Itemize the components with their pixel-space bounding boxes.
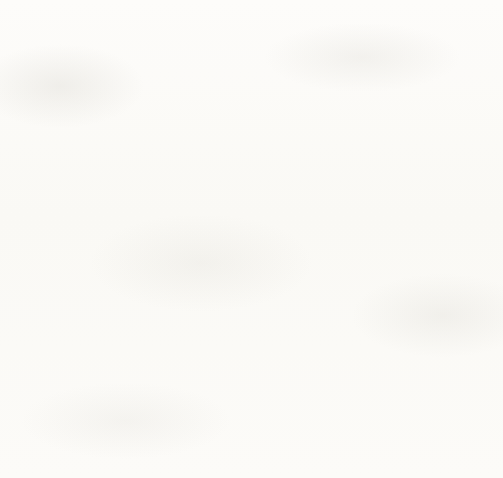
- bar-segment-passenger-related: [133, 120, 143, 193]
- plot-area: [73, 32, 486, 382]
- y-axis-tick-label: USD 10,000: [12, 237, 66, 248]
- y-axis-tick-label: USD 20,000: [12, 97, 66, 108]
- bar-moscow-svo: [442, 259, 452, 382]
- bar-sao-paolo-gru: [210, 172, 220, 382]
- bar-segment-passenger-related: [262, 203, 272, 328]
- legend-label-aircraft-related: Aircraft-related: [221, 60, 282, 70]
- chart-legend: Aircraft-related Passenger-related: [210, 60, 390, 70]
- bar-singapore: [391, 250, 401, 382]
- bar-johannesburg: [133, 120, 143, 382]
- gray-square-icon: [304, 62, 310, 68]
- y-axis-tick: [68, 382, 73, 383]
- bar-segment-passenger-related: [287, 210, 297, 364]
- bar-segment-passenger-related: [365, 249, 375, 306]
- y-axis-tick-label: USD 0: [37, 377, 66, 388]
- chart-page: USD 0USD 5,000USD 10,000USD 15,000USD 20…: [0, 0, 503, 478]
- bar-segment-passenger-related: [313, 242, 323, 351]
- bar-segment-passenger-related: [391, 250, 401, 341]
- bar-segment-passenger-related: [442, 259, 452, 291]
- bar-sydney: [184, 155, 194, 382]
- bar-rome-fco: [158, 148, 168, 382]
- bar-segment-passenger-related: [81, 67, 91, 322]
- bar-segment-passenger-related: [158, 148, 168, 313]
- bar-segment-passenger-related: [236, 183, 246, 354]
- y-axis-tick-label: USD 25,000: [12, 27, 66, 38]
- bar-segment-aircraft-related: [442, 291, 452, 382]
- bar-london-lhr: [81, 67, 91, 382]
- x-axis-labels: London LHRTorontoJohannesburgRome FCOSyd…: [73, 386, 486, 476]
- bar-segment-passenger-related: [184, 155, 194, 326]
- bar-segment-aircraft-related: [339, 341, 349, 382]
- bar-group: [73, 32, 486, 382]
- y-axis-tick-label: USD 15,000: [12, 167, 66, 178]
- bar-segment-passenger-related: [107, 85, 117, 240]
- legend-label-passenger-related: Passenger-related: [315, 60, 390, 70]
- bar-toronto: [107, 85, 117, 382]
- legend-item-passenger-related: Passenger-related: [304, 60, 390, 70]
- bar-segment-aircraft-related: [81, 322, 91, 382]
- bar-mexico-city: [236, 183, 246, 382]
- bar-segment-passenger-related: [210, 172, 220, 311]
- y-axis-tick-label: USD 5,000: [18, 307, 66, 318]
- bar-segment-passenger-related: [416, 256, 426, 364]
- legend-item-aircraft-related: Aircraft-related: [210, 60, 282, 70]
- bar-segment-passenger-related: [339, 248, 349, 342]
- bar-segment-passenger-related: [468, 322, 478, 330]
- dark-square-icon: [210, 62, 216, 68]
- bar-segment-aircraft-related: [133, 193, 143, 382]
- bar-dallas-fort-worth: [339, 248, 349, 382]
